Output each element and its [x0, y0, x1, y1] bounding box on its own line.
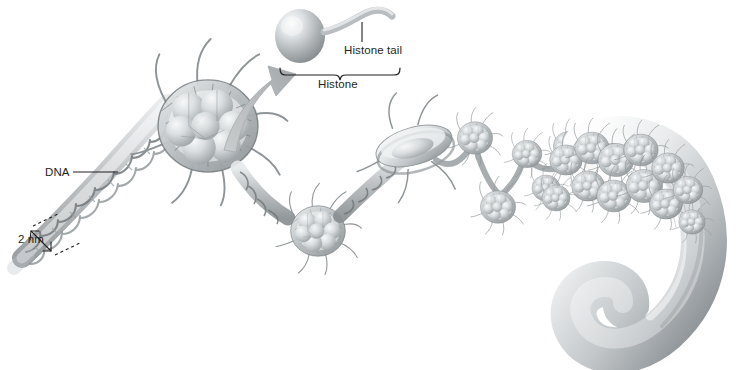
nucleosome-second	[276, 183, 361, 274]
histone-tail-label: Histone tail	[344, 44, 402, 56]
chromatin-packaging-figure: DNA 2 nm Histone tail Histone	[0, 0, 737, 370]
linker-dna-1	[238, 168, 288, 224]
histone-label: Histone	[318, 78, 358, 90]
nucleosome-small-2	[471, 176, 526, 235]
scale-label-2nm: 2 nm	[18, 233, 44, 245]
dna-label: DNA	[45, 166, 70, 178]
